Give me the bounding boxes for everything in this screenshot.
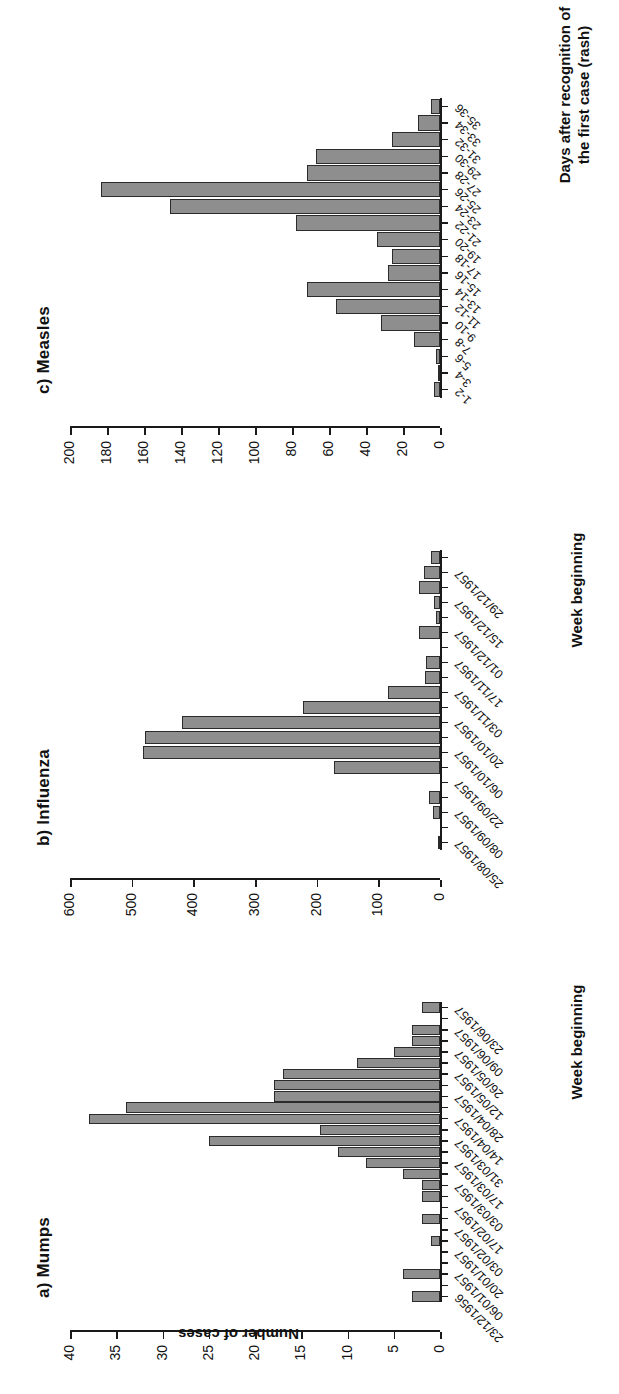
x-axis-tick bbox=[441, 206, 448, 208]
bar bbox=[89, 1114, 441, 1124]
y-axis-tick bbox=[70, 1332, 72, 1339]
x-axis-tick bbox=[441, 572, 448, 574]
panel-influenza: b) Influenza 010020030040050060025/08/19… bbox=[0, 490, 619, 942]
x-axis-tick bbox=[441, 1185, 448, 1187]
bar bbox=[143, 746, 440, 760]
panel-b-xlabel: Week beginning bbox=[568, 520, 585, 660]
panel-a-ylabel: Number of cases bbox=[159, 1326, 319, 1343]
bar bbox=[307, 282, 440, 297]
y-axis-tick bbox=[255, 428, 257, 435]
bar bbox=[392, 249, 440, 264]
bar bbox=[320, 1125, 440, 1135]
x-axis-tick bbox=[441, 106, 448, 108]
bar bbox=[434, 382, 440, 397]
x-axis-tick bbox=[441, 602, 448, 604]
x-axis-tick bbox=[441, 1262, 448, 1264]
y-axis-tick bbox=[317, 880, 319, 887]
y-axis-tick-label: 80 bbox=[283, 441, 299, 493]
bar bbox=[381, 315, 440, 330]
x-axis-tick bbox=[441, 812, 448, 814]
x-axis-tick bbox=[441, 1107, 448, 1109]
x-axis-tick bbox=[441, 356, 448, 358]
x-axis-tick bbox=[441, 139, 448, 141]
bar bbox=[422, 1002, 441, 1012]
x-axis-tick bbox=[441, 692, 448, 694]
panel-a-plot: 051015202530354023/12/195606/01/195720/0… bbox=[70, 1002, 440, 1302]
bar bbox=[436, 349, 440, 364]
x-axis-tick bbox=[441, 306, 448, 308]
bar bbox=[431, 551, 440, 565]
x-axis-tick bbox=[441, 677, 448, 679]
panel-c-plot: 0204060801001201401601802001-23-45-67-89… bbox=[70, 98, 440, 398]
x-axis-tick bbox=[441, 372, 448, 374]
x-axis-tick bbox=[441, 782, 448, 784]
bar bbox=[419, 626, 440, 640]
y-axis-tick-label: 0 bbox=[431, 441, 447, 493]
x-axis-tick bbox=[441, 1196, 448, 1198]
y-axis-tick bbox=[348, 1332, 350, 1339]
bar bbox=[412, 1291, 440, 1301]
x-axis-tick bbox=[441, 617, 448, 619]
y-axis-tick-label: 100 bbox=[369, 893, 385, 945]
y-axis-tick-label: 5 bbox=[385, 1345, 401, 1394]
x-axis-tick bbox=[441, 339, 448, 341]
bar bbox=[274, 1080, 441, 1090]
x-axis-tick bbox=[441, 1118, 448, 1120]
y-axis-tick-label: 20 bbox=[246, 1345, 262, 1394]
bar bbox=[388, 265, 440, 280]
bar bbox=[436, 611, 440, 625]
x-axis-tick bbox=[441, 322, 448, 324]
x-axis-tick bbox=[441, 737, 448, 739]
x-axis-tick bbox=[441, 797, 448, 799]
y-axis-tick bbox=[132, 880, 134, 887]
y-axis-tick bbox=[366, 428, 368, 435]
x-axis-tick bbox=[441, 1229, 448, 1231]
x-axis-tick bbox=[441, 1007, 448, 1009]
x-axis-line bbox=[440, 550, 442, 850]
y-axis-tick bbox=[181, 428, 183, 435]
y-axis-tick-label: 180 bbox=[98, 441, 114, 493]
bar bbox=[434, 596, 440, 610]
y-axis-tick-label: 35 bbox=[107, 1345, 123, 1394]
bar bbox=[418, 115, 440, 130]
bar bbox=[412, 1036, 440, 1046]
y-axis-tick-label: 60 bbox=[320, 441, 336, 493]
bar bbox=[377, 232, 440, 247]
y-axis-tick-label: 200 bbox=[308, 893, 324, 945]
panel-a-xlabel: Week beginning bbox=[568, 972, 585, 1112]
y-axis-tick bbox=[218, 428, 220, 435]
bar bbox=[433, 806, 440, 820]
y-axis-tick-label: 40 bbox=[61, 1345, 77, 1394]
panel-b-title: b) Influenza bbox=[34, 749, 54, 846]
bar bbox=[316, 149, 440, 164]
y-axis-tick bbox=[440, 1332, 442, 1339]
x-axis-tick bbox=[441, 647, 448, 649]
y-axis-tick bbox=[440, 880, 442, 887]
bar bbox=[170, 199, 440, 214]
x-axis-tick bbox=[441, 767, 448, 769]
bar bbox=[425, 671, 440, 685]
x-axis-tick bbox=[441, 1129, 448, 1131]
x-axis-tick bbox=[441, 707, 448, 709]
y-axis-tick bbox=[292, 428, 294, 435]
bar bbox=[419, 581, 440, 595]
panel-a-title: a) Mumps bbox=[34, 1217, 54, 1298]
x-axis-tick bbox=[441, 239, 448, 241]
x-axis-tick bbox=[441, 842, 448, 844]
x-axis-tick bbox=[441, 1240, 448, 1242]
x-axis-tick bbox=[441, 1073, 448, 1075]
y-axis-tick-label: 0 bbox=[431, 893, 447, 945]
y-axis-tick-label: 40 bbox=[357, 441, 373, 493]
x-axis-tick bbox=[441, 1273, 448, 1275]
y-axis-tick bbox=[193, 880, 195, 887]
bar bbox=[388, 686, 440, 700]
x-axis-tick bbox=[441, 1151, 448, 1153]
y-axis-tick-label: 15 bbox=[292, 1345, 308, 1394]
y-axis-tick-label: 500 bbox=[123, 893, 139, 945]
bar bbox=[438, 365, 440, 380]
bar bbox=[126, 1102, 441, 1112]
y-axis-tick bbox=[116, 1332, 118, 1339]
bar bbox=[209, 1136, 440, 1146]
y-axis-tick-label: 200 bbox=[61, 441, 77, 493]
y-axis-tick bbox=[107, 428, 109, 435]
